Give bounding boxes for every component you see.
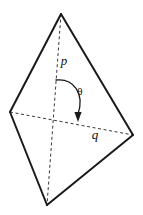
vector-q-label: q [92, 127, 99, 142]
figure-faces [10, 14, 133, 205]
tetrahedron-body-fill [10, 14, 133, 205]
figure-container: p θ q [0, 0, 143, 215]
vector-p-label: p [60, 53, 68, 68]
tetrahedron-diagram: p θ q [0, 0, 143, 215]
angle-theta-label: θ [77, 85, 82, 97]
